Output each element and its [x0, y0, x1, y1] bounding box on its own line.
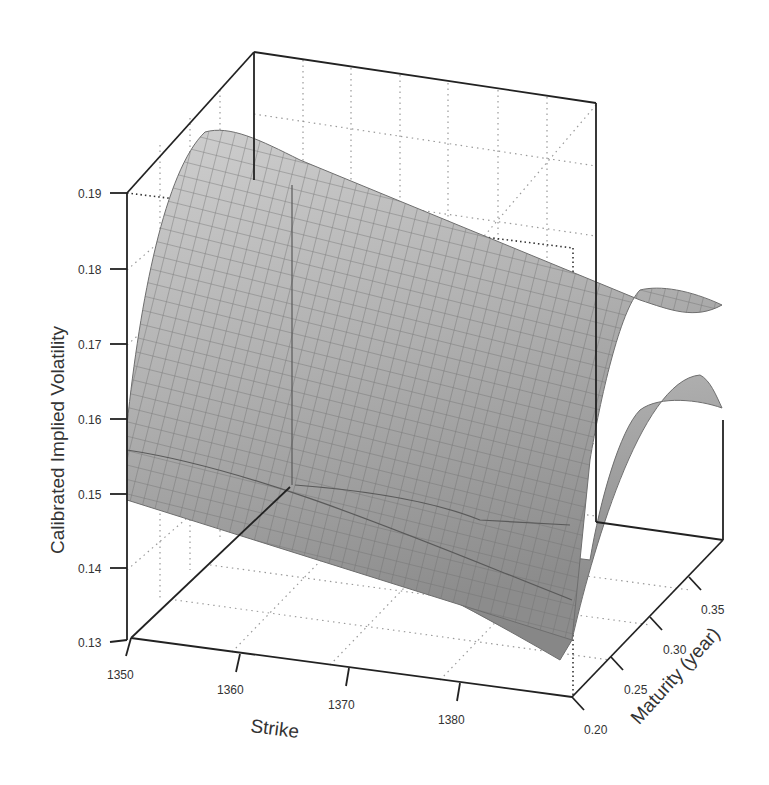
x-axis-title: Strike — [250, 715, 301, 742]
x-tick-label: 1370 — [328, 698, 355, 712]
z-tick-label: 0.19 — [78, 187, 102, 201]
x-axis: 1350 1360 1370 1380 Strike — [107, 638, 465, 742]
surface-upper — [127, 130, 722, 640]
z-tick-label: 0.16 — [78, 413, 102, 427]
z-tick-label: 0.18 — [78, 263, 102, 277]
z-axis: 0.19 0.18 0.17 0.16 0.15 0.14 0.13 Calib… — [47, 187, 127, 650]
y-axis-title: Maturity (year) — [626, 623, 724, 728]
z-tick-label: 0.15 — [78, 488, 102, 502]
z-tick-label: 0.14 — [78, 562, 102, 576]
x-tick-label: 1360 — [217, 683, 244, 697]
y-tick-label: 0.35 — [701, 603, 725, 617]
y-tick-label: 0.20 — [584, 723, 608, 737]
x-tick-label: 1380 — [438, 713, 465, 727]
x-tick-label: 1350 — [107, 668, 134, 682]
surface-plot: 0.19 0.18 0.17 0.16 0.15 0.14 0.13 Calib… — [0, 0, 769, 785]
z-tick-label: 0.17 — [78, 338, 102, 352]
z-axis-title: Calibrated Implied Volatility — [47, 325, 68, 554]
z-tick-label: 0.13 — [78, 636, 102, 650]
y-axis: 0.20 0.25 0.30 0.35 Maturity (year) — [572, 577, 725, 737]
